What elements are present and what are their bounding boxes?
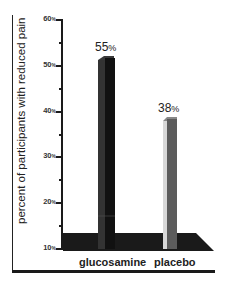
tick-label-10: 10% xyxy=(26,243,56,252)
tick-minor xyxy=(59,179,62,181)
category-label-glucosamine: glucosamine xyxy=(79,256,146,268)
tick-40 xyxy=(56,111,62,113)
tick-20 xyxy=(56,202,62,204)
bar-placebo xyxy=(163,117,177,249)
tick-minor xyxy=(59,134,62,136)
tick-label-30: 30% xyxy=(26,151,56,160)
tick-minor xyxy=(59,88,62,90)
tick-label-40: 40% xyxy=(26,106,56,115)
tick-label-20: 20% xyxy=(26,197,56,206)
value-label-glucosamine: 55% xyxy=(95,40,116,54)
tick-minor xyxy=(59,42,62,44)
tick-label-50: 50% xyxy=(26,60,56,69)
category-label-placebo: placebo xyxy=(154,256,196,268)
floor-platform xyxy=(63,233,214,251)
tick-minor xyxy=(59,225,62,227)
tick-label-60: 60% xyxy=(26,14,56,23)
tick-50 xyxy=(56,65,62,67)
tick-30 xyxy=(56,156,62,158)
bar-glucosamine xyxy=(98,56,115,249)
tick-60 xyxy=(56,19,62,21)
value-label-placebo: 38% xyxy=(158,101,179,115)
tick-10 xyxy=(56,248,62,250)
